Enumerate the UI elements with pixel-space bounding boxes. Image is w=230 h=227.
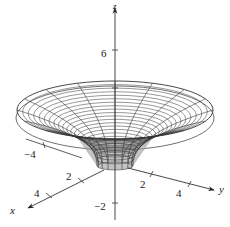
z-axis-label: z bbox=[112, 1, 117, 11]
y-tick-2-label: 2 bbox=[140, 178, 146, 190]
x-tick-4-label: 4 bbox=[34, 187, 40, 199]
x-tick-neg4-label: −4 bbox=[24, 148, 36, 160]
y-axis-label: y bbox=[218, 183, 224, 195]
y-tick-4-label: 4 bbox=[176, 187, 182, 199]
funnel-surface bbox=[16, 81, 214, 170]
surface-plot: z 6 −2 −4 2 4 x 2 4 y bbox=[0, 0, 230, 227]
x-axis-label: x bbox=[9, 204, 15, 216]
x-tick-2-label: 2 bbox=[66, 170, 72, 182]
z-tick-neg2-label: −2 bbox=[94, 200, 106, 212]
z-tick-6-label: 6 bbox=[101, 47, 107, 59]
